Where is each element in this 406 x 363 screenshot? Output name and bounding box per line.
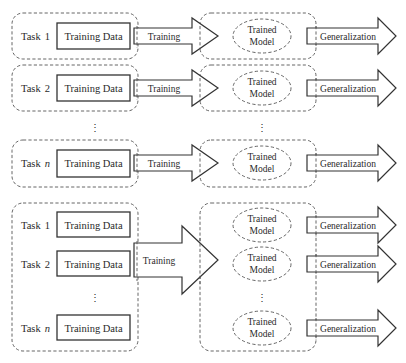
trained-model-label-line2: Model bbox=[250, 89, 275, 99]
task-label: Taskn bbox=[21, 323, 50, 334]
task-label: Task2 bbox=[21, 259, 50, 270]
generalization-arrow-label: Generalization bbox=[320, 221, 376, 231]
trained-model-label-line1: Trained bbox=[247, 77, 276, 87]
generalization-arrow-label: Generalization bbox=[320, 84, 376, 94]
single-task-row-2: Task2 Training Data Training Trained Mod… bbox=[12, 65, 396, 111]
generalization-arrow-label: Generalization bbox=[320, 260, 376, 270]
training-arrow-label: Training bbox=[148, 84, 181, 94]
generalization-arrow-label: Generalization bbox=[320, 32, 376, 42]
training-data-label: Training Data bbox=[64, 31, 123, 42]
ellipsis-tasks: ⋮ bbox=[90, 293, 100, 303]
trained-model-label-line2: Model bbox=[250, 164, 275, 174]
training-data-label: Training Data bbox=[64, 259, 123, 270]
ellipsis-models: ⋮ bbox=[257, 293, 267, 303]
training-arrow-label: Training bbox=[143, 256, 176, 266]
trained-model-label-line1: Trained bbox=[247, 152, 276, 162]
trained-model-label-line2: Model bbox=[250, 329, 275, 339]
generalization-arrow-label: Generalization bbox=[320, 159, 376, 169]
trained-model-label-line2: Model bbox=[250, 226, 275, 236]
task-label: Task2 bbox=[21, 83, 50, 94]
single-task-row-1: Task1 Training Data Training Trained Mod… bbox=[12, 13, 396, 59]
task-label: Taskn bbox=[21, 158, 50, 169]
ellipsis-models: ⋮ bbox=[257, 123, 267, 133]
ellipsis-tasks: ⋮ bbox=[90, 123, 100, 133]
trained-model-label-line1: Trained bbox=[247, 25, 276, 35]
training-data-label: Training Data bbox=[64, 158, 123, 169]
multi-task-section: Task1 Training Data Task2 Training Data … bbox=[12, 203, 396, 351]
trained-model-label-line1: Trained bbox=[247, 253, 276, 263]
trained-model-label-line1: Trained bbox=[247, 317, 276, 327]
generalization-arrow-label: Generalization bbox=[320, 324, 376, 334]
training-data-label: Training Data bbox=[64, 323, 123, 334]
trained-model-label-line2: Model bbox=[250, 265, 275, 275]
trained-model-label-line1: Trained bbox=[247, 214, 276, 224]
training-arrow-label: Training bbox=[148, 32, 181, 42]
training-data-label: Training Data bbox=[64, 83, 123, 94]
training-arrow-label: Training bbox=[148, 159, 181, 169]
task-label: Task1 bbox=[21, 31, 50, 42]
single-task-row-n: Taskn Training Data Training Trained Mod… bbox=[12, 140, 396, 187]
diagram-canvas: Task1 Training Data Training Trained Mod… bbox=[0, 0, 406, 363]
training-data-label: Training Data bbox=[64, 220, 123, 231]
trained-model-label-line2: Model bbox=[250, 37, 275, 47]
task-label: Task1 bbox=[21, 220, 50, 231]
